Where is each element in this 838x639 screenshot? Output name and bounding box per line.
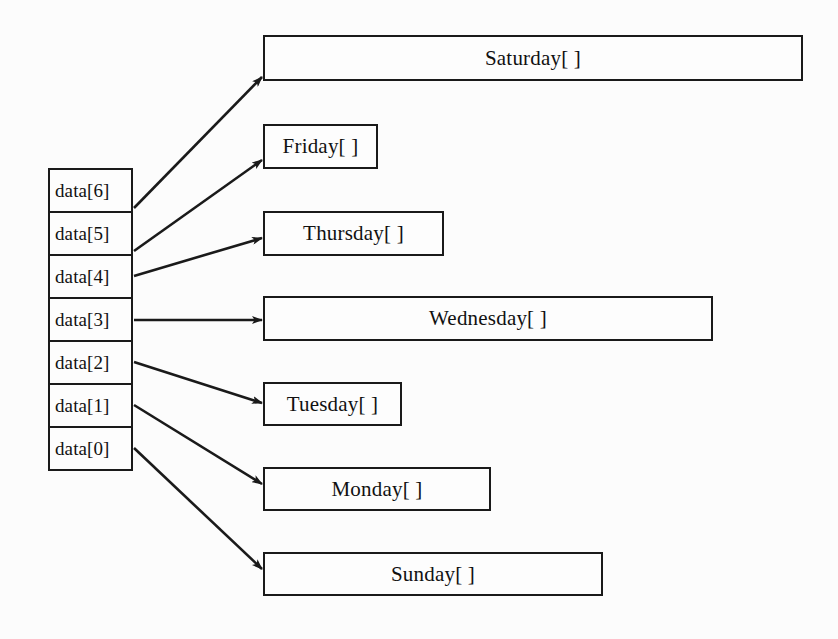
target-box-tuesday: Tuesday[ ] [263, 382, 402, 426]
target-box-label: Thursday[ ] [303, 221, 404, 246]
pointer-arrow-data4-thursday [134, 238, 262, 276]
target-box-label: Friday[ ] [283, 134, 359, 159]
array-cell-5: data[5] [50, 213, 131, 256]
array-cell-4: data[4] [50, 256, 131, 299]
array-cell-label: data[3] [55, 310, 110, 329]
target-box-monday: Monday[ ] [263, 467, 491, 511]
array-cell-label: data[0] [55, 439, 110, 458]
pointer-arrow-data1-monday [134, 405, 262, 484]
array-cell-3: data[3] [50, 299, 131, 342]
target-box-label: Monday[ ] [331, 477, 422, 502]
target-box-label: Saturday[ ] [485, 46, 581, 71]
array-cell-label: data[4] [55, 267, 110, 286]
pointer-arrow-data2-tuesday [134, 362, 262, 403]
pointer-arrow-data0-sunday [134, 448, 262, 569]
array-cell-2: data[2] [50, 342, 131, 385]
array-cell-6: data[6] [50, 170, 131, 213]
target-box-wednesday: Wednesday[ ] [263, 296, 713, 341]
array-cell-0: data[0] [50, 428, 131, 471]
array-cell-label: data[6] [55, 181, 110, 200]
target-box-label: Sunday[ ] [391, 562, 475, 587]
pointer-arrow-data6-saturday [134, 77, 262, 208]
target-box-saturday: Saturday[ ] [263, 35, 803, 81]
array-cell-1: data[1] [50, 385, 131, 428]
target-box-label: Wednesday[ ] [429, 306, 547, 331]
target-box-friday: Friday[ ] [263, 124, 378, 169]
target-box-label: Tuesday[ ] [287, 392, 379, 417]
data-array: data[6] data[5] data[4] data[3] data[2] … [48, 168, 133, 471]
array-cell-label: data[2] [55, 353, 110, 372]
target-box-sunday: Sunday[ ] [263, 552, 603, 596]
array-pointer-diagram: data[6] data[5] data[4] data[3] data[2] … [0, 0, 838, 639]
array-cell-label: data[1] [55, 396, 110, 415]
array-cell-label: data[5] [55, 224, 110, 243]
target-box-thursday: Thursday[ ] [263, 211, 444, 256]
pointer-arrow-data5-friday [134, 160, 262, 251]
